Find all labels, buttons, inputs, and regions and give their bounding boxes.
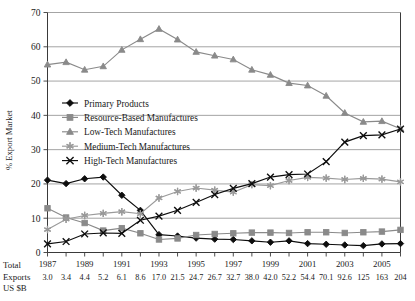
data-point-marker: [67, 100, 74, 107]
y-tick-label-0: 0: [36, 248, 41, 258]
legend-label: Low-Tech Manufactures: [84, 127, 176, 137]
data-point-marker: [398, 227, 403, 232]
data-point-marker: [174, 207, 181, 214]
footer-line-units: US $B: [3, 283, 27, 293]
data-point-marker: [231, 231, 236, 236]
data-point-marker: [249, 66, 255, 72]
total-export-value-2002: 70.1: [319, 273, 333, 282]
total-export-value-1988: 3.4: [61, 273, 71, 282]
data-point-marker: [119, 225, 124, 230]
total-export-value-2001: 54.4: [300, 273, 314, 282]
data-point-marker: [82, 220, 87, 225]
y-axis-ticks: 010203040506070: [31, 8, 48, 258]
data-point-marker: [174, 36, 180, 42]
data-point-marker: [323, 158, 330, 165]
data-point-marker: [360, 242, 366, 248]
data-point-marker: [323, 92, 329, 98]
data-point-marker: [267, 239, 273, 245]
x-tick-label-1989: 1989: [76, 259, 94, 269]
x-tick-label-1995: 1995: [187, 259, 205, 269]
data-point-marker: [137, 36, 143, 42]
total-export-value-1990: 5.2: [98, 273, 108, 282]
total-export-value-2003: 92.6: [338, 273, 352, 282]
legend-label: High-Tech Manufactures: [84, 156, 177, 166]
data-point-marker: [342, 230, 347, 235]
total-export-value-1989: 4.4: [80, 273, 90, 282]
total-export-value-1996: 26.7: [208, 273, 222, 282]
data-point-marker: [63, 180, 69, 186]
export-market-line-chart: 010203040506070 198719891991199319951997…: [0, 0, 415, 301]
legend-item-resource-based-manufactures[interactable]: Resource-Based Manufactures: [62, 113, 198, 123]
data-point-marker: [175, 236, 180, 241]
series-primary-products: [44, 174, 403, 249]
data-point-marker: [138, 231, 143, 236]
data-point-marker: [342, 242, 348, 248]
chart-legend: Primary ProductsResource-Based Manufactu…: [62, 99, 198, 167]
x-axis-ticks: 1987198919911993199519971999200120032005: [39, 253, 401, 270]
data-point-marker: [230, 236, 236, 242]
data-point-marker: [156, 26, 162, 32]
total-export-value-1987: 3.0: [42, 273, 52, 282]
data-point-marker: [361, 230, 366, 235]
y-tick-label-30: 30: [31, 145, 41, 155]
total-export-value-2006: 204: [394, 273, 406, 282]
y-axis-label: % Export Market: [4, 110, 14, 170]
data-point-marker: [323, 230, 328, 235]
series-line: [48, 177, 401, 229]
data-point-marker: [304, 240, 310, 246]
data-point-marker: [44, 177, 50, 183]
legend-label: Primary Products: [84, 99, 149, 109]
y-tick-label-40: 40: [31, 111, 41, 121]
data-point-marker: [193, 199, 200, 206]
chart-figure: 010203040506070 198719891991199319951997…: [0, 0, 415, 301]
data-point-marker: [212, 231, 217, 236]
data-point-marker: [268, 230, 273, 235]
data-point-marker: [67, 115, 73, 121]
data-point-marker: [45, 206, 50, 211]
data-point-marker: [249, 238, 255, 244]
data-point-marker: [286, 230, 291, 235]
data-point-marker: [156, 237, 161, 242]
x-tick-label-1987: 1987: [39, 259, 57, 269]
x-tick-label-1997: 1997: [224, 259, 242, 269]
data-point-marker: [44, 226, 50, 233]
data-point-marker: [286, 238, 292, 244]
x-tick-label-2003: 2003: [336, 259, 354, 269]
total-export-value-2000: 52.2: [282, 273, 296, 282]
data-point-marker: [397, 240, 403, 246]
y-tick-label-20: 20: [31, 179, 41, 189]
x-tick-label-2005: 2005: [373, 259, 391, 269]
data-point-marker: [249, 230, 254, 235]
footer-line-exports: Exports: [3, 272, 31, 282]
y-tick-label-60: 60: [31, 42, 41, 52]
data-point-marker: [379, 229, 384, 234]
x-tick-label-1993: 1993: [150, 259, 168, 269]
total-export-value-1995: 24.7: [189, 273, 203, 282]
total-export-value-2005: 163: [376, 273, 388, 282]
x-tick-label-1999: 1999: [262, 259, 280, 269]
x-tick-label-1991: 1991: [113, 259, 131, 269]
total-export-value-1994: 21.5: [170, 273, 184, 282]
legend-item-high-tech-manufactures[interactable]: High-Tech Manufactures: [62, 156, 177, 166]
legend-item-low-tech-manufactures[interactable]: Low-Tech Manufactures: [62, 127, 176, 137]
legend-label: Medium-Tech Manufactures: [84, 142, 190, 152]
y-tick-label-70: 70: [31, 8, 41, 18]
y-tick-label-50: 50: [31, 76, 41, 86]
x-tick-label-2001: 2001: [299, 259, 317, 269]
data-point-marker: [193, 49, 199, 55]
data-point-marker: [305, 230, 310, 235]
total-export-value-1997: 32.7: [226, 273, 240, 282]
total-export-value-1991: 6.1: [117, 273, 127, 282]
data-point-marker: [63, 59, 69, 65]
legend-item-medium-tech-manufactures[interactable]: Medium-Tech Manufactures: [62, 142, 190, 152]
total-export-value-1998: 38.0: [245, 273, 259, 282]
data-point-marker: [81, 176, 87, 182]
data-point-marker: [193, 232, 198, 237]
series-medium-tech-manufactures: [44, 174, 403, 233]
y-axis-title: % Export Market: [4, 110, 14, 170]
total-export-value-2004: 125: [357, 273, 369, 282]
data-point-marker: [379, 241, 385, 247]
series-resource-based-manufactures: [45, 206, 403, 243]
total-export-value-1992: 8.6: [135, 273, 145, 282]
legend-item-primary-products[interactable]: Primary Products: [62, 99, 149, 109]
